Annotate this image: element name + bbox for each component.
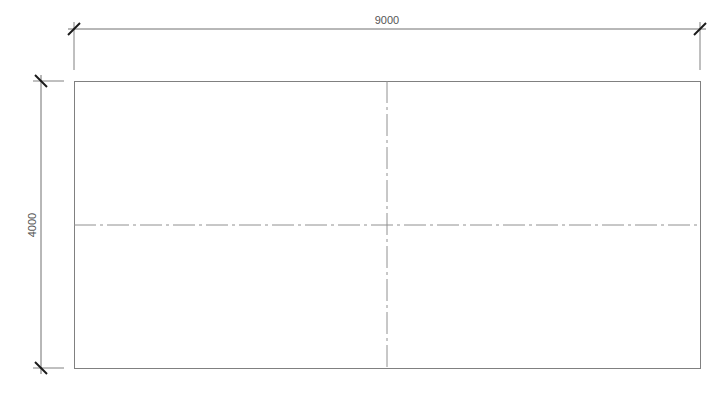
width-dimension: 9000 — [68, 14, 706, 70]
height-dimension-label: 4000 — [26, 213, 38, 237]
width-dimension-label: 9000 — [375, 14, 399, 26]
cad-drawing: 9000 4000 — [0, 0, 721, 394]
height-dimension: 4000 — [26, 75, 64, 374]
